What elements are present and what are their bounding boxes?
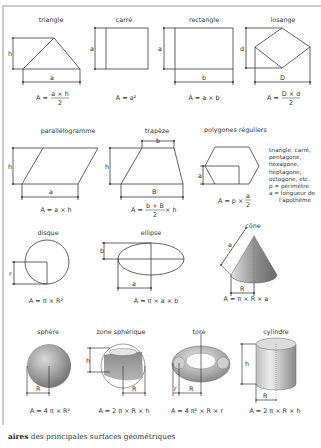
- parallelogramme-shape: [12, 148, 98, 200]
- dim-h: h: [86, 357, 90, 365]
- ellipse-shape: [102, 243, 184, 291]
- dim-a: a: [228, 241, 232, 249]
- parallelogramme-title: parallélogramme: [41, 127, 96, 135]
- dim-D: D: [280, 74, 285, 82]
- triangle-den: 2: [58, 99, 62, 107]
- disque-shape: [12, 240, 69, 284]
- carre-title: carré: [116, 16, 132, 24]
- caption-rest: des principales surfaces géométriques: [28, 432, 175, 441]
- dim-R: R: [240, 285, 245, 293]
- trapeze-shape: [109, 140, 183, 200]
- dim-b: b: [202, 74, 206, 82]
- dim-a: a: [49, 188, 53, 196]
- note-line: l'apothème: [269, 197, 315, 204]
- hexagone-shape: [200, 147, 259, 184]
- note-line: p = périmètre: [269, 183, 315, 190]
- dim-d: d: [240, 45, 244, 53]
- disque-title: disque: [37, 229, 58, 237]
- note-line: octogone, etc.: [269, 176, 315, 183]
- dim-r: r: [9, 270, 12, 278]
- dim-R: R: [132, 385, 137, 393]
- dim-a: a: [90, 45, 94, 53]
- losange-shape: [245, 28, 310, 85]
- polygones-notes: triangle, carré, pentagone, hexagone, he…: [269, 147, 315, 205]
- cylindre-shape: [240, 338, 296, 403]
- ellipse-formula: A = π × a × b: [134, 297, 178, 305]
- disque-formula: A = π × R²: [29, 297, 63, 305]
- cone-formula: A = π × R × a: [224, 295, 269, 303]
- dim-b: b: [100, 247, 104, 255]
- polygones-num: a: [246, 192, 250, 200]
- geometry-figure: triangle h a A = a × h 2 carré a A = a² …: [0, 0, 321, 448]
- triangle-title: triangle: [39, 16, 64, 24]
- losange-den: 2: [289, 99, 293, 107]
- dim-h: h: [105, 163, 109, 171]
- trapeze-title: trapèze: [145, 127, 169, 135]
- triangle-num: a × h: [51, 90, 68, 98]
- dim-a: a: [198, 172, 202, 180]
- dim-R: R: [263, 392, 268, 400]
- trapeze-num: b + B: [146, 202, 164, 210]
- triangle-formula-prefix: A =: [36, 94, 48, 102]
- dim-r: r: [174, 385, 177, 393]
- dim-a: a: [50, 74, 54, 82]
- parallelogramme-formula: A = a × h: [40, 206, 71, 214]
- carre-formula: A = a²: [116, 94, 137, 102]
- dim-h: h: [8, 163, 12, 171]
- note-line: pentagone,: [269, 154, 315, 161]
- trapeze-formula-prefix: A =: [131, 206, 143, 214]
- rectangle-shape: [163, 28, 233, 85]
- dim-h: h: [245, 360, 249, 368]
- polygones-formula-prefix: A = p ×: [218, 197, 243, 205]
- note-line: triangle, carré,: [269, 147, 315, 154]
- losange-num: D × d: [282, 90, 300, 98]
- tore-title: tore: [193, 328, 206, 336]
- note-line: heptagone,: [269, 169, 315, 176]
- trapeze-suffix: × h: [165, 206, 176, 214]
- trapeze-den: 2: [153, 211, 157, 219]
- dim-R: R: [36, 385, 41, 393]
- cone-shape: [221, 228, 277, 296]
- dim-a: a: [132, 280, 136, 288]
- carre-shape: [94, 28, 148, 69]
- sphere-title: sphère: [37, 328, 59, 336]
- dim-b: b: [156, 137, 160, 145]
- sphere-shape: [27, 344, 71, 396]
- rectangle-title: rectangle: [189, 16, 219, 24]
- cone-title: cône: [245, 222, 260, 230]
- losange-formula-prefix: A =: [267, 94, 279, 102]
- triangle-shape: [13, 38, 80, 85]
- dim-a: a: [158, 45, 162, 53]
- rectangle-formula: A = a × b: [188, 94, 219, 102]
- caption-bold: aires: [8, 432, 28, 441]
- note-line: hexagone,: [269, 161, 315, 168]
- sphere-formula: A = 4 π × R²: [30, 407, 71, 415]
- tore-formula: A = 4 π² × R × r: [171, 407, 224, 415]
- tore-shape: [172, 333, 230, 396]
- note-line: a = longueur de: [269, 190, 315, 197]
- dim-B: B: [152, 188, 156, 196]
- cylindre-formula: A = 2 π × R × h: [249, 407, 300, 415]
- dim-h: h: [8, 50, 12, 58]
- zone-spherique-formula: A = 2 π × R × h: [98, 407, 149, 415]
- zone-spherique-title: zone sphérique: [96, 328, 145, 336]
- losange-title: losange: [271, 16, 296, 24]
- figure-caption: aires des principales surfaces géométriq…: [8, 432, 175, 441]
- dim-R: R: [189, 385, 194, 393]
- cylindre-title: cylindre: [263, 328, 288, 336]
- ellipse-title: ellipse: [141, 229, 162, 237]
- polygones-den: 2: [246, 201, 250, 209]
- polygones-title: polygones réguliers: [204, 126, 267, 134]
